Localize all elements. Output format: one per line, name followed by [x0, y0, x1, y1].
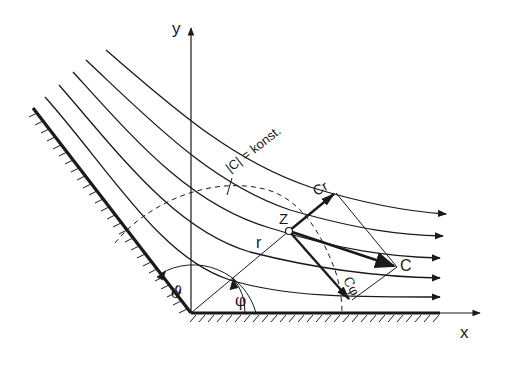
inclined-wall	[29, 108, 191, 313]
horizontal-wall	[190, 313, 440, 322]
streamline-1	[45, 97, 440, 297]
vector-cr	[289, 194, 334, 231]
constant-velocity-line	[115, 178, 342, 313]
y-axis-label: y	[172, 19, 181, 38]
point-z-label: Z	[279, 210, 288, 227]
radius-label: r	[256, 234, 262, 251]
velocity-c-label: C	[400, 257, 412, 274]
angle-phi-label: φ	[235, 291, 246, 310]
x-axis-label: x	[460, 323, 469, 342]
point-z-marker	[286, 228, 293, 235]
velocity-cr-label: Cr	[310, 177, 331, 198]
streamlines	[45, 50, 446, 297]
diagram-canvas: y x |C| = konst. Z r C Cr Cφ φ ϑ	[0, 0, 508, 365]
